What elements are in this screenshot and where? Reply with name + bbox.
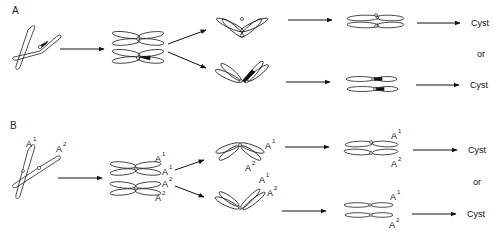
panel-b-daughter-bottom [344,203,393,218]
allele-sup: 1 [398,128,402,134]
panel-a-bivalent [112,30,165,64]
allele-label-a1: A [26,139,32,149]
allele-sup: 2 [169,176,173,182]
panel-b-label: B [10,120,17,131]
panel-a-label: A [12,5,19,16]
outcome-label: Cyst [467,209,485,219]
panel-a-anaphase-top [215,16,269,39]
allele-sup: 2 [274,185,278,191]
allele-label-a1: A [259,175,265,185]
outcome-label: Cyst [468,145,486,155]
allele-sup: 1 [33,136,37,142]
allele-sup: 1 [162,151,166,157]
allele-sup: 1 [266,172,270,178]
allele-sup: 2 [398,156,402,162]
allele-sup: 1 [272,138,276,144]
allele-label-a1: A [390,192,396,202]
allele-label-a2: A [391,159,397,169]
allele-label-a1: A [265,141,271,151]
allele-label-a2: A [155,193,161,203]
panel-b-anaphase-bottom [214,187,267,211]
panel-a-daughter-top [347,14,404,29]
panel-a-anaphase-bottom [214,59,270,84]
allele-label-a2: A [245,163,251,173]
panel-b-daughter-top [344,140,398,155]
panel-b: B A 1 A 2 A 1 A 1 A 2 [10,120,486,230]
allele-label-a2: A [56,144,62,154]
panel-a-daughter-bottom [346,77,398,92]
arrow [168,52,206,68]
outcome-label: Cyst [471,18,489,28]
arrow [175,160,204,170]
panel-a-initial-chromosomes [13,26,61,70]
panel-b-bivalent [110,161,161,197]
allele-label-a2: A [162,179,168,189]
panel-b-anaphase-top [215,141,265,163]
allele-label-a2: A [389,220,395,230]
arrow [175,186,204,197]
allele-sup: 2 [252,160,256,166]
outcome-label: Cyst [470,80,488,90]
allele-sup: 1 [169,164,173,170]
allele-label-a1: A [391,131,397,141]
panel-b-initial-chromosomes [13,145,61,199]
allele-label-a1: A [155,154,161,164]
separator-label: or [477,49,485,59]
allele-label-a2: A [267,188,273,198]
chromosome-segregation-diagram: A [0,0,494,238]
allele-sup: 2 [396,217,400,223]
arrow [168,30,206,44]
allele-sup: 2 [63,141,67,147]
allele-sup: 1 [397,189,401,195]
panel-a: A [12,5,489,92]
allele-sup: 2 [162,190,166,196]
allele-label-a1: A [162,167,168,177]
separator-label: or [473,177,481,187]
